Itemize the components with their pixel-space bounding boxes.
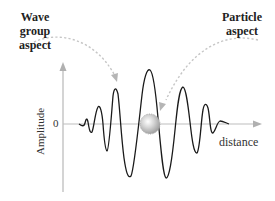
particle-sphere-icon — [140, 114, 160, 134]
particle-pointer-arrow — [159, 38, 258, 111]
wave-group-label-line2: aspect — [4, 38, 66, 52]
wave-group-aspect-label: Wave group aspect — [4, 10, 66, 52]
wave-group-arrowhead-icon — [111, 73, 118, 82]
zero-tick-label: 0 — [53, 117, 59, 129]
particle-label-line2: aspect — [212, 24, 272, 38]
particle-label-line1: Particle — [212, 10, 272, 24]
y-axis-arrowhead-icon — [60, 62, 67, 71]
y-axis — [60, 62, 67, 192]
particle-arrowhead-icon — [159, 102, 166, 111]
particle-aspect-label: Particle aspect — [212, 10, 272, 38]
x-axis-label: distance — [219, 135, 258, 150]
y-axis-label: Amplitude — [34, 108, 46, 155]
wave-group-label-line1: Wave group — [4, 10, 66, 38]
x-axis-arrowhead-icon — [253, 121, 262, 128]
